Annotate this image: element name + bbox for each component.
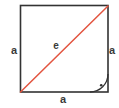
label-side-right: a	[109, 45, 115, 56]
label-diagonal: e	[53, 40, 59, 51]
geometry-figure-square-diagonal: a a a e	[0, 0, 119, 108]
diagonal-line	[21, 6, 109, 92]
right-angle-arc-icon	[90, 74, 108, 92]
label-side-left: a	[11, 45, 17, 56]
label-side-bottom: a	[60, 94, 66, 105]
right-angle-dot-icon	[100, 84, 103, 87]
